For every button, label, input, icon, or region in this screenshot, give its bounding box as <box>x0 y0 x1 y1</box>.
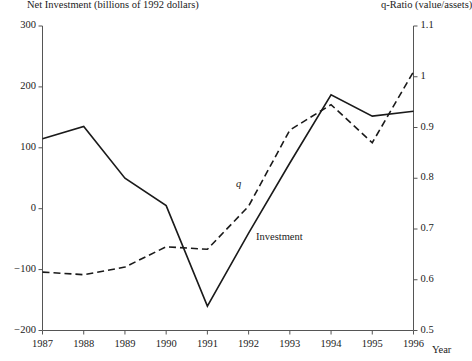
right-tick-label: 1.1 <box>421 19 455 30</box>
axis-lines <box>43 26 414 331</box>
left-tick-label: 300 <box>2 19 36 30</box>
left-axis-ticks <box>39 26 43 331</box>
left-tick-label: −200 <box>2 324 36 335</box>
right-axis-ticks <box>414 26 418 331</box>
left-tick-label: 0 <box>2 202 36 213</box>
x-tick-label: 1990 <box>144 338 188 349</box>
right-tick-label: 0.6 <box>421 273 455 284</box>
right-tick-label: 1 <box>421 70 455 81</box>
x-axis-title: Year <box>432 344 451 355</box>
right-tick-label: 0.7 <box>421 222 455 233</box>
x-tick-label: 1996 <box>392 338 436 349</box>
x-tick-label: 1993 <box>268 338 312 349</box>
investment-line <box>43 95 414 306</box>
right-tick-label: 0.8 <box>421 171 455 182</box>
x-tick-label: 1995 <box>350 338 394 349</box>
q-ratio-line <box>43 72 414 275</box>
x-tick-label: 1992 <box>227 338 271 349</box>
left-tick-label: 100 <box>2 141 36 152</box>
right-tick-label: 0.9 <box>421 121 455 132</box>
x-tick-label: 1991 <box>185 338 229 349</box>
left-tick-label: −100 <box>2 263 36 274</box>
x-tick-label: 1994 <box>309 338 353 349</box>
x-tick-label: 1989 <box>103 338 147 349</box>
x-tick-label: 1988 <box>62 338 106 349</box>
x-tick-label: 1987 <box>21 338 65 349</box>
x-axis-ticks <box>43 331 414 335</box>
q-series-label: q <box>236 178 241 189</box>
left-tick-label: 200 <box>2 80 36 91</box>
right-tick-label: 0.5 <box>421 324 455 335</box>
investment-series-label: Investment <box>256 231 303 242</box>
